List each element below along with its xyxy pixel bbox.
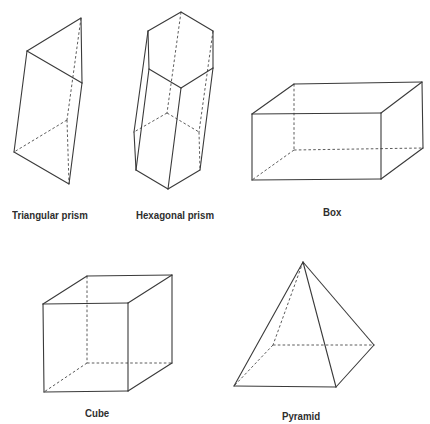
hexagonal-prism-hidden-edge bbox=[199, 132, 200, 170]
triangular-prism-visible-edge bbox=[27, 18, 81, 51]
triangular-prism-visible-edge bbox=[27, 51, 82, 83]
triangular-prism-visible-edge bbox=[14, 152, 69, 184]
cube-visible-edge bbox=[87, 275, 172, 276]
hexagonal-prism-visible-edge bbox=[136, 69, 149, 170]
hexagonal-prism-label: Hexagonal prism bbox=[136, 209, 214, 221]
box-visible-edge bbox=[381, 148, 423, 179]
hexagonal-prism-hidden-edge bbox=[134, 113, 167, 132]
cube-hidden-edge bbox=[44, 363, 87, 392]
hexagonal-prism-visible-edge bbox=[200, 68, 213, 170]
pyramid-visible-edge bbox=[234, 386, 336, 387]
hexagonal-prism-visible-edge bbox=[136, 170, 168, 189]
box-visible-edge bbox=[252, 84, 294, 114]
hexagonal-prism-visible-edge bbox=[148, 31, 149, 69]
box-figure bbox=[252, 82, 423, 180]
triangular-prism-figure bbox=[14, 18, 82, 184]
box-visible-edge bbox=[422, 82, 423, 148]
triangular-prism-label: Triangular prism bbox=[12, 209, 88, 221]
hexagonal-prism-hidden-edge bbox=[167, 12, 181, 113]
hexagonal-prism-visible-edge bbox=[148, 12, 181, 31]
hexagonal-prism-visible-edge bbox=[149, 69, 181, 88]
box-hidden-edge bbox=[252, 150, 294, 180]
cube-visible-edge bbox=[128, 275, 172, 303]
hexagonal-prism-visible-edge bbox=[134, 31, 148, 132]
hexagonal-prism-visible-edge bbox=[168, 170, 200, 189]
hexagonal-prism-visible-edge bbox=[168, 88, 181, 189]
hexagonal-prism-figure bbox=[134, 12, 213, 189]
cube-label: Cube bbox=[85, 407, 109, 419]
cube-visible-edge bbox=[43, 304, 44, 392]
pyramid-visible-edge bbox=[234, 262, 303, 386]
box-hidden-edge bbox=[294, 148, 423, 150]
cube-visible-edge bbox=[44, 391, 128, 392]
triangular-prism-hidden-edge bbox=[14, 120, 67, 152]
hexagonal-prism-visible-edge bbox=[181, 68, 213, 88]
pyramid-figure bbox=[234, 262, 374, 387]
triangular-prism-visible-edge bbox=[14, 51, 27, 152]
cube-visible-edge bbox=[128, 363, 172, 391]
pyramid-visible-edge bbox=[336, 345, 374, 387]
box-visible-edge bbox=[381, 82, 422, 113]
hexagonal-prism-hidden-edge bbox=[167, 113, 199, 132]
pyramid-label: Pyramid bbox=[282, 410, 320, 422]
hexagonal-prism-visible-edge bbox=[134, 132, 136, 170]
box-visible-edge bbox=[252, 113, 381, 114]
cube-visible-edge bbox=[43, 303, 128, 304]
hexagonal-prism-visible-edge bbox=[181, 12, 213, 31]
cube-visible-edge bbox=[43, 276, 87, 304]
triangular-prism-visible-edge bbox=[69, 83, 82, 184]
box-label: Box bbox=[323, 206, 341, 218]
pyramid-hidden-edge bbox=[273, 262, 303, 345]
triangular-prism-hidden-edge bbox=[67, 120, 69, 184]
triangular-prism-visible-edge bbox=[81, 18, 82, 83]
box-visible-edge bbox=[252, 179, 381, 180]
box-visible-edge bbox=[294, 82, 422, 84]
cube-figure bbox=[43, 275, 172, 392]
